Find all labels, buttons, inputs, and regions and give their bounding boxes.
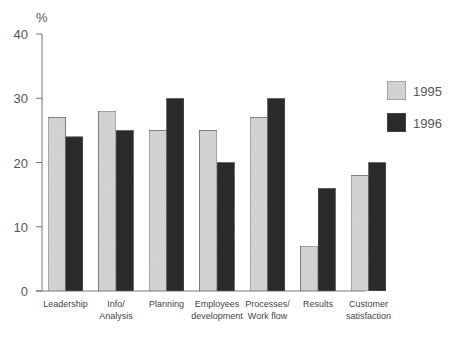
bar-1995 — [200, 130, 218, 291]
y-axis-unit-label: % — [36, 10, 48, 25]
y-tick-label: 40 — [14, 27, 28, 42]
bar-1995 — [351, 175, 369, 291]
bar-1995 — [250, 118, 268, 291]
category-label: Employees — [195, 299, 240, 309]
bar-chart: % 010203040 LeadershipInfo/AnalysisPlann… — [0, 0, 455, 340]
y-tick-label: 20 — [14, 156, 28, 171]
y-tick-label: 0 — [21, 284, 28, 299]
category-label: Work flow — [248, 311, 288, 321]
legend: 19951996 — [387, 81, 442, 132]
bar-1996 — [217, 163, 235, 292]
bar-1996 — [268, 98, 286, 291]
bar-1996 — [116, 130, 134, 291]
category-label: Processes/ — [245, 299, 290, 309]
legend-label-1995: 1995 — [413, 84, 442, 99]
bar-1995 — [48, 118, 66, 291]
y-tick-label: 10 — [14, 220, 28, 235]
category-label: Planning — [149, 299, 184, 309]
bar-1996 — [167, 98, 185, 291]
bar-1995 — [149, 130, 167, 291]
legend-swatch-1996 — [387, 113, 406, 132]
bar-1995 — [99, 111, 117, 291]
category-label: development — [191, 311, 243, 321]
bar-1996 — [369, 163, 387, 292]
legend-label-1996: 1996 — [413, 116, 442, 131]
legend-swatch-1995 — [387, 81, 406, 100]
bar-1996 — [318, 188, 336, 291]
category-label: Leadership — [43, 299, 88, 309]
category-label: satisfaction — [346, 311, 391, 321]
category-label: Results — [303, 299, 334, 309]
bar-1995 — [301, 246, 319, 291]
bars — [48, 98, 386, 291]
category-label: Info/ — [107, 299, 125, 309]
x-axis-labels: LeadershipInfo/AnalysisPlanningEmployees… — [43, 299, 391, 321]
category-label: Customer — [349, 299, 388, 309]
bar-1996 — [66, 137, 84, 291]
y-tick-label: 30 — [14, 91, 28, 106]
category-label: Analysis — [99, 311, 133, 321]
